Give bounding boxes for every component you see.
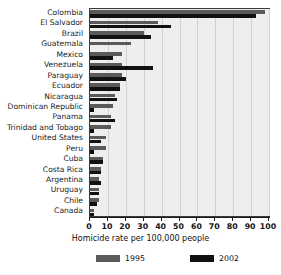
- bar-2002: [90, 66, 153, 70]
- bar-2002: [90, 119, 115, 123]
- bar-row: [90, 9, 269, 19]
- bar-row: [90, 103, 269, 113]
- bar-2002: [90, 140, 101, 144]
- bar-2002: [90, 202, 97, 206]
- category-label: Canada: [0, 206, 86, 216]
- bar-row: [90, 145, 269, 155]
- x-tick-label: 40: [155, 222, 166, 231]
- category-axis-labels: ColombiaEl SalvadorBrazilGuatemalaMexico…: [0, 8, 86, 217]
- category-label: Trinidad and Tobago: [0, 123, 86, 133]
- bar-2002: [90, 108, 94, 112]
- category-label: Costa Rica: [0, 165, 86, 175]
- category-label: Peru: [0, 144, 86, 154]
- bar-row: [90, 19, 269, 29]
- x-tick-mark: [125, 217, 126, 221]
- legend-item-1995: 1995: [96, 254, 145, 263]
- bar-row: [90, 72, 269, 82]
- bar-1995: [90, 42, 131, 46]
- category-label: Argentina: [0, 175, 86, 185]
- legend-label-1995: 1995: [125, 254, 145, 263]
- bar-row: [90, 155, 269, 165]
- bar-2002: [90, 77, 126, 81]
- legend-swatch-1995-icon: [96, 255, 120, 262]
- bar-row: [90, 82, 269, 92]
- x-tick-label: 90: [245, 222, 256, 231]
- bar-2002: [90, 150, 94, 154]
- x-tick-label: 80: [227, 222, 238, 231]
- x-tick-label: 20: [119, 222, 130, 231]
- category-label: Venezuela: [0, 60, 86, 70]
- bar-row: [90, 166, 269, 176]
- x-tick-label: 50: [173, 222, 184, 231]
- x-tick-label: 0: [86, 222, 91, 231]
- bar-rows: [90, 9, 269, 216]
- bar-row: [90, 134, 269, 144]
- homicide-rate-bar-chart: ColombiaEl SalvadorBrazilGuatemalaMexico…: [0, 0, 281, 275]
- x-tick-mark: [161, 217, 162, 221]
- x-tick-label: 60: [191, 222, 202, 231]
- category-label: Brazil: [0, 29, 86, 39]
- x-tick-label: 10: [101, 222, 112, 231]
- x-tick-mark: [179, 217, 180, 221]
- bar-row: [90, 40, 269, 50]
- bar-row: [90, 197, 269, 207]
- plot-area: [89, 8, 270, 217]
- bar-row: [90, 186, 269, 196]
- bar-2002: [90, 192, 99, 196]
- x-axis-title: Homicide rate per 100,000 people: [0, 234, 281, 243]
- bar-2002: [90, 56, 113, 60]
- legend-item-2002: 2002: [190, 254, 239, 263]
- category-label: Nicaragua: [0, 92, 86, 102]
- bar-2002: [90, 35, 151, 39]
- legend-swatch-2002-icon: [190, 255, 214, 262]
- category-label: El Salvador: [0, 18, 86, 28]
- x-tick-label: 70: [209, 222, 220, 231]
- bar-row: [90, 61, 269, 71]
- bar-2002: [90, 160, 103, 164]
- bar-row: [90, 51, 269, 61]
- category-label: Guatemala: [0, 39, 86, 49]
- bar-row: [90, 176, 269, 186]
- x-tick-mark: [196, 217, 197, 221]
- x-tick-mark: [143, 217, 144, 221]
- category-label: Colombia: [0, 8, 86, 18]
- category-label: Cuba: [0, 154, 86, 164]
- category-label: United States: [0, 133, 86, 143]
- category-label: Ecuador: [0, 81, 86, 91]
- bar-row: [90, 124, 269, 134]
- legend-label-2002: 2002: [219, 254, 239, 263]
- x-tick-mark: [89, 217, 90, 221]
- category-label: Dominican Republic: [0, 102, 86, 112]
- x-axis-line: [89, 217, 270, 218]
- x-tick-mark: [268, 217, 269, 221]
- category-label: Mexico: [0, 50, 86, 60]
- bar-2002: [90, 129, 94, 133]
- x-tick-mark: [214, 217, 215, 221]
- bar-row: [90, 30, 269, 40]
- bar-2002: [90, 213, 94, 217]
- bar-row: [90, 93, 269, 103]
- x-tick-mark: [232, 217, 233, 221]
- bar-2002: [90, 25, 171, 29]
- category-label: Panama: [0, 112, 86, 122]
- bar-2002: [90, 87, 120, 91]
- bar-2002: [90, 14, 256, 18]
- x-tick-mark: [250, 217, 251, 221]
- bar-2002: [90, 171, 101, 175]
- bar-2002: [90, 98, 117, 102]
- x-tick-label: 30: [137, 222, 148, 231]
- gridline-100: [269, 9, 270, 216]
- x-tick-mark: [107, 217, 108, 221]
- bar-row: [90, 113, 269, 123]
- category-label: Paraguay: [0, 71, 86, 81]
- chart-legend: 1995 2002: [0, 254, 281, 266]
- category-label: Uruguay: [0, 185, 86, 195]
- x-tick-label: 100: [260, 222, 276, 231]
- category-label: Chile: [0, 196, 86, 206]
- bar-2002: [90, 181, 101, 185]
- x-axis-tick-labels: 0102030405060708090100: [89, 222, 270, 233]
